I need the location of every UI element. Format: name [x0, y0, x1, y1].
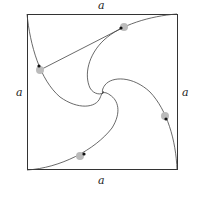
line-of-sight	[40, 27, 124, 70]
spiral-from-top-right	[87, 14, 177, 94]
bug-icon	[76, 152, 86, 160]
label-left: a	[16, 87, 23, 98]
bug-icon	[161, 112, 169, 121]
label-top: a	[98, 0, 105, 11]
bug-icon	[36, 64, 44, 74]
pursuit-diagram	[0, 0, 204, 198]
label-bottom: a	[98, 175, 105, 186]
spiral-from-top-left	[27, 14, 103, 106]
label-right: a	[182, 87, 189, 98]
bug-icon	[119, 23, 128, 31]
